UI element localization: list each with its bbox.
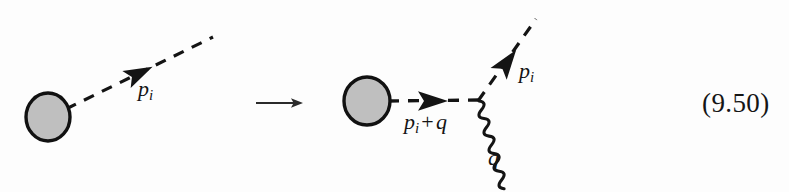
label-pi-right-base: p [519, 58, 530, 83]
label-pi-left-subscript: i [149, 87, 153, 103]
label-momentum-q: q [488, 147, 499, 169]
transform-arrow-icon [256, 98, 303, 108]
label-pi-left-base: p [138, 76, 149, 101]
label-piq-base: p [404, 109, 415, 134]
diagram-vector-layer [0, 0, 789, 192]
right-hadronic-blob [344, 77, 390, 125]
label-piq-operator: + [419, 109, 436, 134]
label-pi-right-subscript: i [530, 69, 534, 85]
label-momentum-pi-plus-q: pi+q [404, 111, 447, 136]
label-momentum-pi-right: pi [519, 60, 534, 85]
label-momentum-pi-left: pi [138, 78, 153, 103]
right-diagram-group [344, 19, 536, 191]
left-hadronic-blob [26, 93, 70, 141]
label-piq-tail: q [436, 109, 447, 134]
left-diagram-group [26, 37, 213, 141]
right-internal-arrowhead [418, 91, 448, 111]
equation-number: (9.50) [702, 88, 770, 119]
figure-canvas: pi pi+q pi q (9.50) [0, 0, 789, 192]
